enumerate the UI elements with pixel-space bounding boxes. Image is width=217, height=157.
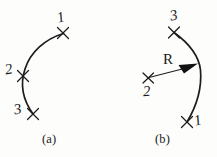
panel-caption-a: (a) [42,133,56,146]
arc-curve-b [174,33,201,123]
point-label-a-2: 2 [4,61,14,77]
point-marker-b-1 [182,117,193,128]
arc-curve-a [23,34,64,115]
point-marker-b-2 [143,73,154,83]
figure-canvas [0,0,217,157]
point-marker-a-1 [58,28,69,39]
radius-arrow-head-icon [179,64,199,74]
radius-label: R [163,52,173,67]
panel-a-graphics [18,28,69,120]
point-marker-b-3 [169,27,180,38]
point-label-a-3: 3 [13,101,23,117]
point-label-b-2: 2 [142,84,151,99]
panel-caption-b: (b) [155,133,170,146]
arc-construction-figure: 1 2 3 (a) 3 2 1 R (b) [0,0,217,157]
point-marker-a-3 [28,109,39,120]
